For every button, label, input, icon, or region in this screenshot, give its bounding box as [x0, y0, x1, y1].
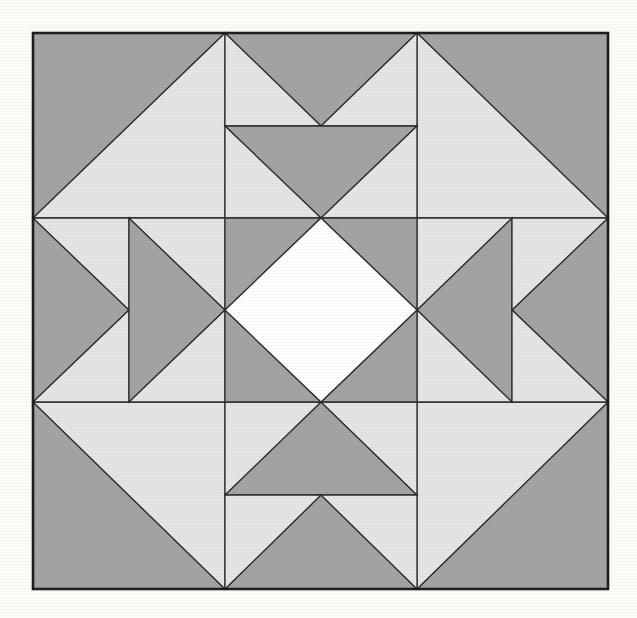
quilt-block-figure — [0, 0, 637, 618]
page-background — [0, 0, 637, 618]
